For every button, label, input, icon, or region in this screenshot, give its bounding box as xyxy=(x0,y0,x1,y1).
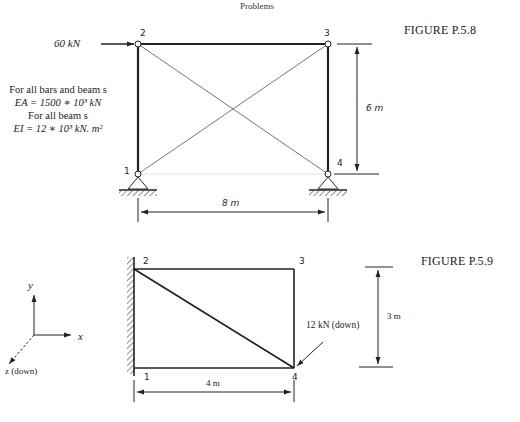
axis-label-y: y xyxy=(28,279,33,291)
property-line-2: For all beam s xyxy=(4,109,112,122)
dimension-label-6m: 6 m xyxy=(366,103,383,113)
node-label-2-p59: 2 xyxy=(143,256,149,266)
node-label-1-p59: 1 xyxy=(144,372,150,382)
node-label-3: 3 xyxy=(324,28,330,38)
coordinate-axes xyxy=(9,295,71,364)
node-label-2: 2 xyxy=(140,28,146,38)
axis-label-x: x xyxy=(78,330,83,342)
load-label-60kn: 60 kN xyxy=(54,37,80,49)
pin-support-1 xyxy=(119,177,157,196)
hinge-node-3 xyxy=(325,41,331,47)
material-properties: For all bars and beam s EA = 1500 ∗ 10³ … xyxy=(4,83,112,135)
dimension-label-4m: 4 m xyxy=(206,378,220,388)
node-label-3-p59: 3 xyxy=(299,256,305,266)
node-label-4: 4 xyxy=(337,158,343,168)
dimension-label-3m: 3 m xyxy=(387,311,401,321)
property-line-ei: EI = 12 ∗ 10³ kN. m² xyxy=(4,122,112,135)
property-line-1: For all bars and beam s xyxy=(4,83,112,96)
dimension-label-8m: 8 m xyxy=(222,198,239,208)
figure-p58-drawing xyxy=(0,0,520,422)
fixed-wall-support xyxy=(127,257,134,376)
hinge-node-1 xyxy=(135,171,141,177)
axis-label-z: z (down) xyxy=(5,366,37,376)
member-2-4 xyxy=(134,269,294,368)
load-arrow-12kn xyxy=(297,342,323,366)
hinge-node-2 xyxy=(135,41,141,47)
figure-p58-caption: FIGURE P.5.8 xyxy=(404,23,476,38)
node-label-1: 1 xyxy=(124,166,130,176)
figure-p59-caption: FIGURE P.5.9 xyxy=(421,254,493,269)
load-label-12kn: 12 kN (down) xyxy=(306,320,359,330)
property-line-ea: EA = 1500 ∗ 10³ kN xyxy=(4,96,112,109)
node-label-4-p59: 4 xyxy=(292,372,298,382)
hinge-node-4 xyxy=(325,171,331,177)
pin-support-4 xyxy=(309,177,347,196)
